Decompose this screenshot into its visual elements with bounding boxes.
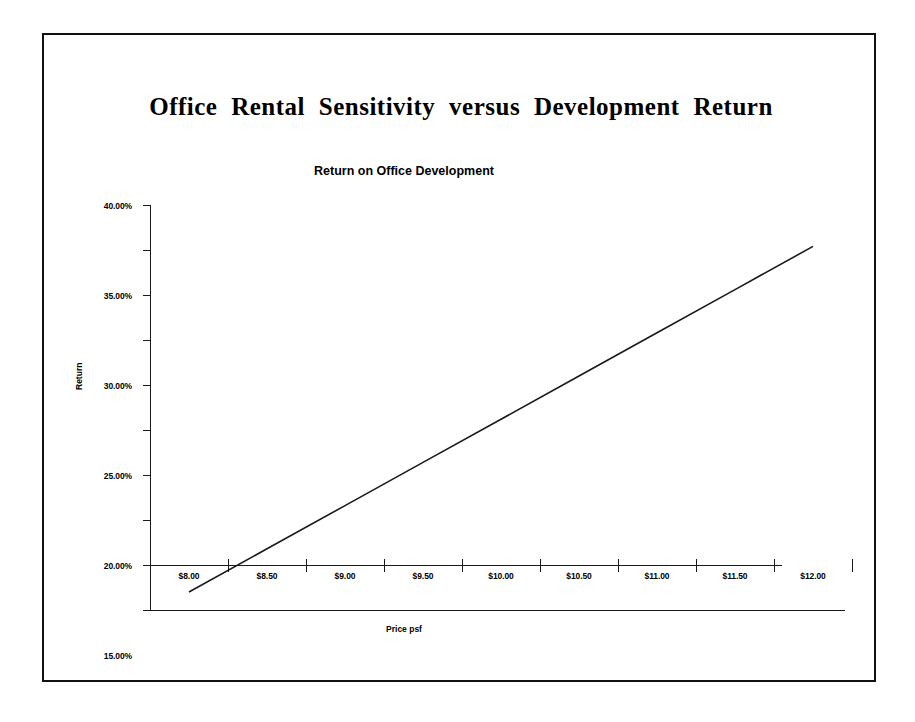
y-axis-title: Return	[74, 363, 84, 390]
chart-frame-border: Office Rental Sensitivity versus Develop…	[42, 33, 876, 682]
y-axis-tick-label: 35.00%	[104, 291, 132, 301]
page-canvas: Office Rental Sensitivity versus Develop…	[0, 0, 915, 722]
y-axis-tick: 10.00%	[143, 475, 150, 476]
plot-bottom-rule	[150, 610, 845, 611]
y-axis-tick: 0%	[143, 565, 150, 566]
chart-title: Return on Office Development	[294, 164, 514, 178]
y-axis-tick-label: 15.00%	[104, 651, 132, 661]
return-line-path	[189, 246, 813, 592]
plot-area: 40.00%35.00%30.00%25.00%20.00%15.00%10.0…	[150, 205, 845, 610]
x-axis-tick	[852, 559, 853, 572]
y-axis-tick: 5.00%	[143, 520, 150, 521]
y-axis-tick-label: 20.00%	[104, 561, 132, 571]
y-axis-tick: 15.00%	[143, 430, 150, 431]
y-axis-tick: -5.00%	[143, 610, 150, 611]
y-axis-tick-label: 30.00%	[104, 381, 132, 391]
series-line-return	[150, 205, 845, 610]
y-axis-tick: 20.00%	[143, 385, 150, 386]
y-axis-tick: 30.00%	[143, 295, 150, 296]
line-chart: Return on Office Development Return Pric…	[44, 35, 878, 684]
y-axis-tick: 25.00%	[143, 340, 150, 341]
x-axis-title: Price psf	[294, 624, 514, 634]
y-axis-tick: 40.00%	[143, 205, 150, 206]
y-axis-tick-label: 40.00%	[104, 201, 132, 211]
y-axis-tick-label: 25.00%	[104, 471, 132, 481]
y-axis-tick: 35.00%	[143, 250, 150, 251]
